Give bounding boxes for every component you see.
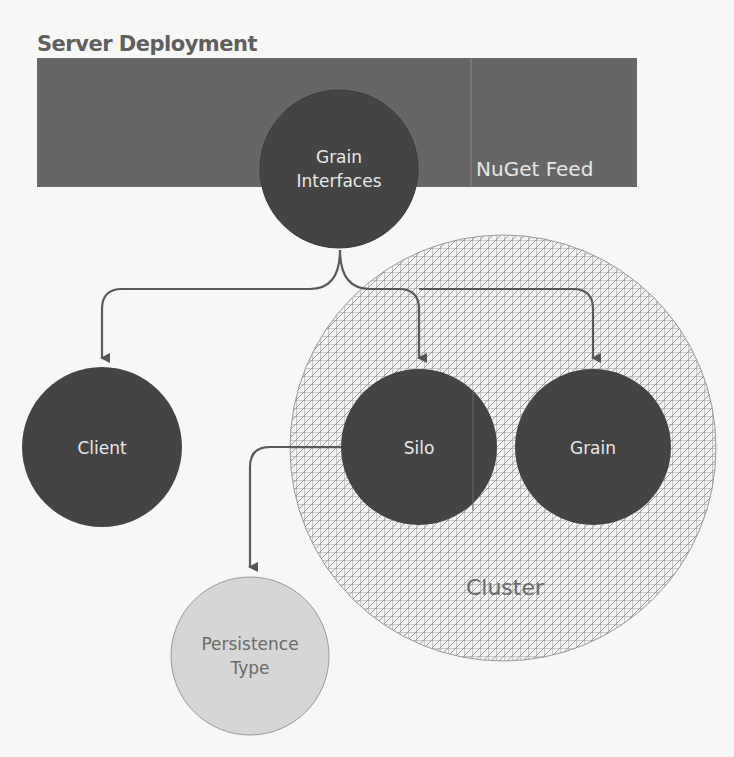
persistence-type-label: Persistence Type (190, 632, 310, 680)
persistence-line1: Persistence (190, 632, 310, 656)
silo-label: Silo (359, 436, 479, 460)
nuget-feed-label: NuGet Feed (476, 157, 593, 181)
client-label: Client (42, 436, 162, 460)
diagram-title: Server Deployment (37, 32, 257, 56)
grain-label: Grain (533, 436, 653, 460)
persistence-line2: Type (190, 656, 310, 680)
cluster-label: Cluster (455, 575, 555, 600)
grain-interfaces-line2: Interfaces (279, 169, 399, 193)
grain-interfaces-label: Grain Interfaces (279, 145, 399, 193)
diagram-canvas (0, 0, 734, 757)
grain-interfaces-line1: Grain (279, 145, 399, 169)
